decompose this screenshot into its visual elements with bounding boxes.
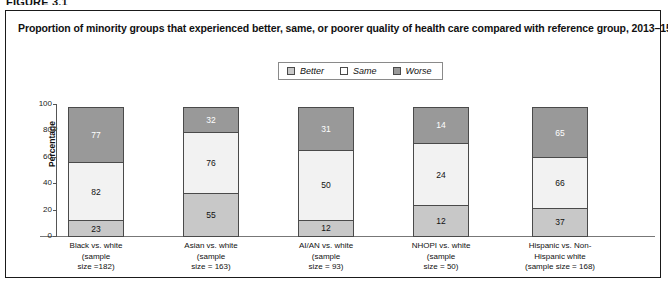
bar-segment-same[interactable]: 50	[298, 150, 354, 221]
bar-segment-value: 24	[436, 170, 445, 180]
y-axis-tick-mark	[53, 236, 57, 237]
bar-segment-same[interactable]: 82	[68, 162, 124, 222]
y-axis-tick-label: 60	[30, 153, 52, 161]
legend-label: Same	[353, 66, 377, 76]
bar-segment-better[interactable]: 37	[532, 208, 588, 237]
y-axis-tick-label: 100	[30, 100, 52, 108]
bar-segment-better[interactable]: 12	[298, 220, 354, 237]
bar-segment-same[interactable]: 24	[413, 143, 469, 206]
bar-segment-value: 50	[321, 180, 330, 190]
bar-group[interactable]: 656637	[532, 107, 588, 236]
bar-group[interactable]: 315012	[298, 107, 354, 236]
chart-title: Proportion of minority groups that exper…	[18, 22, 650, 34]
x-axis-label-line: (sample size = 168)	[485, 262, 635, 273]
x-axis-label-line: Hispanic vs. Non-	[485, 241, 635, 252]
bar-segment-value: 14	[436, 120, 445, 130]
bar-segment-value: 37	[555, 217, 564, 227]
x-axis-label-line: Hispanic white	[485, 252, 635, 263]
bar-segment-value: 12	[321, 223, 330, 233]
bar-group[interactable]: 142412	[413, 107, 469, 236]
bar-segment-better[interactable]: 12	[413, 205, 469, 237]
bar-segment-same[interactable]: 76	[183, 132, 239, 194]
y-axis-tick-label: 40	[30, 179, 52, 187]
bar-segment-value: 55	[206, 210, 215, 220]
bar-group[interactable]: 327655	[183, 107, 239, 236]
chart-legend: BetterSameWorse	[278, 62, 443, 80]
y-axis-tick-label: 20	[30, 206, 52, 214]
figure-container: FIGURE 3.1 Proportion of minority groups…	[0, 0, 668, 284]
legend-label: Better	[300, 66, 324, 76]
bar-segment-value: 31	[321, 124, 330, 134]
bar-segment-same[interactable]: 66	[532, 157, 588, 209]
bar-segment-worse[interactable]: 32	[183, 107, 239, 133]
bar-segment-better[interactable]: 55	[183, 193, 239, 237]
bar-segment-worse[interactable]: 14	[413, 107, 469, 144]
bar-segment-value: 76	[206, 158, 215, 168]
figure-number-label: FIGURE 3.1	[6, 0, 68, 5]
bar-segment-better[interactable]: 23	[68, 220, 124, 237]
legend-item-same[interactable]: Same	[340, 66, 377, 76]
x-axis-category-label: Hispanic vs. Non-Hispanic white(sample s…	[485, 241, 635, 273]
bar-segment-worse[interactable]: 31	[298, 107, 354, 151]
legend-label: Worse	[406, 66, 432, 76]
legend-swatch-worse-icon	[393, 67, 401, 75]
y-axis-tick-label: 80	[30, 126, 52, 134]
bar-segment-worse[interactable]: 77	[68, 107, 124, 163]
bar-segment-value: 65	[555, 128, 564, 138]
legend-swatch-same-icon	[340, 67, 348, 75]
bar-segment-value: 66	[555, 178, 564, 188]
bar-segment-value: 77	[91, 130, 100, 140]
bar-segment-value: 12	[436, 216, 445, 226]
legend-swatch-better-icon	[287, 67, 295, 75]
bar-segment-value: 32	[206, 115, 215, 125]
bar-segment-value: 23	[91, 224, 100, 234]
bar-group[interactable]: 778223	[68, 107, 124, 236]
bar-series-area: 778223327655315012142412656637	[57, 104, 655, 236]
y-axis-tick-label: 0	[30, 232, 52, 240]
bar-segment-worse[interactable]: 65	[532, 107, 588, 158]
legend-item-worse[interactable]: Worse	[393, 66, 432, 76]
bar-segment-value: 82	[91, 187, 100, 197]
legend-item-better[interactable]: Better	[287, 66, 324, 76]
